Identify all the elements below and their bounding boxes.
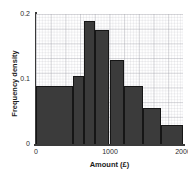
- histogram-bar: [161, 125, 183, 145]
- histogram-bar: [143, 108, 161, 144]
- histogram-bar: [110, 60, 125, 145]
- x-axis-line: [34, 144, 185, 146]
- plot-area: [36, 14, 183, 144]
- histogram-bar: [124, 86, 142, 145]
- y-axis-title: Frequency density: [10, 29, 19, 139]
- y-axis-tick-label-0point2: 0.2: [8, 10, 30, 17]
- histogram-bar: [73, 76, 84, 144]
- x-axis-tick-label-1000: 1000: [95, 148, 125, 155]
- histogram-chart: 0 0.1 0.2 0 1000 2000 Frequency density …: [0, 0, 188, 172]
- y-axis-tick-label-0: 0: [8, 140, 30, 147]
- x-axis-tick-label-2000: 2000: [168, 148, 188, 155]
- histogram-bar: [95, 30, 110, 144]
- histogram-bar: [36, 86, 73, 145]
- x-axis-tick-label-0: 0: [21, 148, 51, 155]
- x-axis-title: Amount (£): [36, 160, 183, 169]
- histogram-bar: [84, 21, 95, 145]
